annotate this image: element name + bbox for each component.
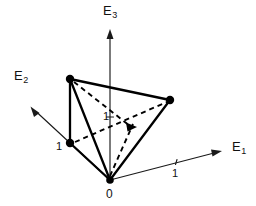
origin-label: 0 [106, 188, 113, 200]
vertex-dot-left-unit [66, 139, 74, 147]
tick-label-e1: 1 [172, 168, 178, 179]
tick-mark-e1 [176, 160, 178, 165]
center-arrowhead-icon [126, 123, 137, 132]
dashed-edge-topleft-center [74, 82, 130, 126]
solid-edge-group [70, 79, 170, 180]
solid-edge-right-origin [110, 100, 170, 180]
vertex-dot-origin [106, 176, 114, 184]
axis-arrowhead-e1 [211, 150, 222, 157]
tick-label-e2: 1 [56, 141, 62, 152]
axis-arrowhead-e2 [31, 107, 40, 118]
axis-label-e1: E1 [232, 140, 246, 153]
vertex-dot-right [166, 96, 174, 104]
axis-arrowhead-e3 [107, 29, 114, 39]
simplex-figure: E1 E2 E3 1 1 1 0 [0, 0, 256, 206]
axis-label-e2: E2 [14, 69, 28, 82]
vertex-dot-top-left [66, 75, 74, 83]
axis-line-e1 [110, 153, 216, 181]
dashed-edge-origin-center [110, 124, 133, 176]
tick-label-e3: 1 [103, 111, 109, 122]
axis-label-e3: E3 [103, 4, 117, 17]
solid-edge-leftunit-origin [70, 143, 110, 180]
figure-canvas [0, 0, 256, 206]
